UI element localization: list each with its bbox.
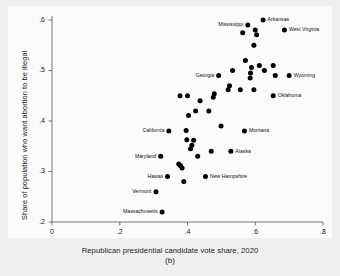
data-point — [248, 76, 253, 81]
data-point-wyoming — [287, 73, 292, 78]
point-label-alaska: Alaska — [235, 149, 251, 154]
data-point — [184, 128, 189, 133]
data-point — [238, 87, 243, 92]
data-point-oklahoma — [271, 93, 276, 98]
data-point — [193, 108, 198, 113]
data-point — [227, 83, 232, 88]
data-point-california — [166, 129, 171, 134]
data-point — [191, 138, 196, 143]
point-label-west-virginia: West Virginia — [289, 27, 319, 32]
point-label-california: California — [142, 128, 164, 133]
data-point — [195, 154, 200, 159]
data-point-massachusetts — [160, 209, 165, 214]
data-point — [198, 98, 203, 103]
point-label-arkansas: Arkansas — [268, 17, 290, 22]
data-point-group — [153, 18, 291, 215]
data-point — [243, 58, 248, 63]
x-tick-label: .8 — [313, 228, 333, 235]
point-label-mississippi: Mississippi — [218, 22, 243, 27]
data-point-maryland — [158, 154, 163, 159]
data-point — [248, 71, 253, 76]
data-point — [185, 93, 190, 98]
data-point — [189, 143, 194, 148]
data-point — [257, 63, 262, 68]
data-point-west-virginia — [282, 28, 287, 33]
data-point — [253, 28, 258, 33]
data-point-montana — [242, 129, 247, 134]
x-tick-label: .2 — [110, 228, 130, 235]
point-label-new-hampshire: New Hampshire — [210, 174, 247, 179]
data-point — [249, 65, 254, 70]
data-point — [251, 43, 256, 48]
data-point — [184, 137, 189, 142]
data-point — [251, 87, 256, 92]
data-point-vermont — [153, 189, 158, 194]
data-point — [180, 165, 185, 170]
data-point-alaska — [228, 149, 233, 154]
x-tick-label: .6 — [245, 228, 265, 235]
data-point-georgia — [216, 73, 221, 78]
data-point — [273, 73, 278, 78]
x-axis-title: Republican presidential candidate vote s… — [0, 246, 340, 255]
data-point — [271, 63, 276, 68]
data-point — [178, 93, 183, 98]
data-point — [254, 32, 259, 37]
data-point-arkansas — [261, 18, 266, 23]
point-label-georgia: Georgia — [196, 73, 214, 78]
point-label-hawaii: Hawaii — [147, 174, 163, 179]
y-axis-title: Share of population who want abortion to… — [20, 51, 29, 220]
data-point — [230, 68, 235, 73]
point-label-montana: Montana — [249, 128, 269, 133]
figure-caption: (b) — [0, 256, 340, 265]
x-tick-label: 0 — [42, 228, 62, 235]
data-point — [219, 124, 224, 129]
data-point-new-hampshire — [203, 174, 208, 179]
data-point-hawaii — [165, 174, 170, 179]
data-point — [240, 30, 245, 35]
data-point-mississippi — [245, 23, 250, 28]
point-label-massachusetts: Massachusetts — [123, 209, 158, 214]
point-label-vermont: Vermont — [132, 189, 151, 194]
tick-marks — [49, 20, 324, 226]
data-point — [262, 68, 267, 73]
x-tick-label: .4 — [178, 228, 198, 235]
data-point — [181, 179, 186, 184]
y-tick-label: .6 — [25, 16, 45, 23]
scatter-plot — [0, 0, 340, 276]
data-point — [212, 91, 217, 96]
point-label-maryland: Maryland — [135, 154, 156, 159]
point-label-oklahoma: Oklahoma — [278, 93, 302, 98]
point-label-wyoming: Wyoming — [294, 73, 316, 78]
data-point — [209, 149, 214, 154]
axis-lines — [52, 16, 323, 222]
figure-panel: .2.3.4.5.60.2.4.6.8 MassachusettsVermont… — [0, 0, 340, 276]
data-point — [206, 108, 211, 113]
data-point — [186, 113, 191, 118]
